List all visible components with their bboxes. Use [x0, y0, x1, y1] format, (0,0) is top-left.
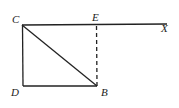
geometry-diagram: C E X D B	[0, 0, 179, 108]
segment-cd	[23, 25, 24, 86]
segment-cb	[22, 25, 97, 86]
label-x: X	[160, 22, 169, 34]
segment-cx	[22, 24, 167, 25]
label-b: B	[101, 86, 108, 98]
label-e: E	[91, 11, 99, 23]
segment-eb-dashed	[97, 26, 98, 86]
label-c: C	[12, 13, 20, 25]
label-d: D	[10, 86, 19, 98]
